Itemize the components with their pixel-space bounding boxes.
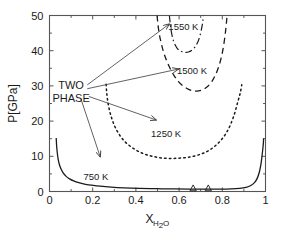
y-tick-label-3: 30 xyxy=(31,80,43,92)
curve-label-1250-k: 1250 K xyxy=(151,128,182,139)
x-tick-label-5: 1 xyxy=(262,194,268,206)
y-tick-label-2: 20 xyxy=(31,115,43,127)
two-phase-label-line1: TWO xyxy=(58,79,84,91)
two-phase-label-line2: PHASE xyxy=(52,92,89,104)
curve-label-750-k: 750 K xyxy=(84,171,109,182)
x-tick-label-1: 0.2 xyxy=(85,194,100,206)
y-tick-label-5: 50 xyxy=(31,10,43,22)
phase-diagram-figure: 00.20.40.60.81 01020304050 1550 K1500 K1… xyxy=(0,0,286,238)
y-tick-label-1: 10 xyxy=(31,150,43,162)
chart-canvas: 00.20.40.60.81 01020304050 1550 K1500 K1… xyxy=(0,0,286,238)
x-tick-label-2: 0.4 xyxy=(128,194,143,206)
y-axis-title: P[GPa] xyxy=(6,84,20,123)
x-axis-title-sub-o: O xyxy=(163,219,169,228)
y-tick-label-4: 40 xyxy=(31,45,43,57)
y-tick-label-0: 0 xyxy=(37,186,43,198)
x-tick-label-3: 0.6 xyxy=(171,194,186,206)
x-tick-label-4: 0.8 xyxy=(215,194,230,206)
curve-label-1500-k: 1500 K xyxy=(177,65,208,76)
x-tick-label-0: 0 xyxy=(46,194,52,206)
curve-label-1550-k: 1550 K xyxy=(168,21,199,32)
